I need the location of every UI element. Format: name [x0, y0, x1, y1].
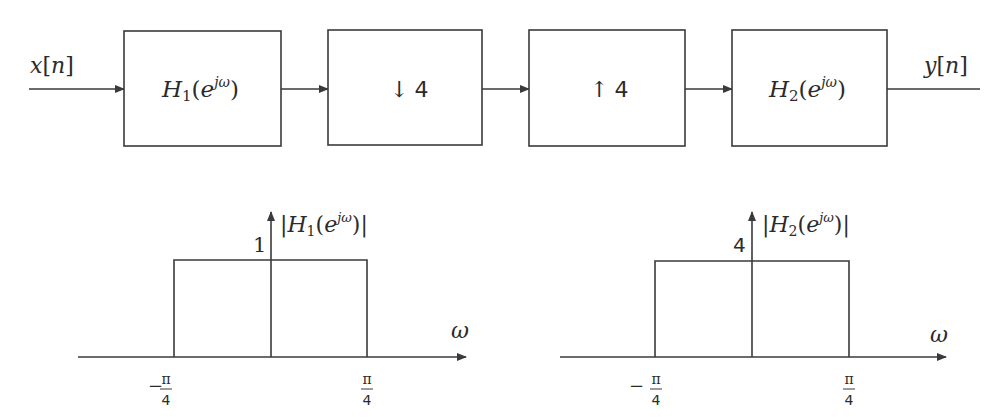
svg-text:4: 4: [363, 392, 372, 408]
block-diagram: x[n] H1(ejω) ↓4 ↑4: [29, 30, 980, 146]
tick-pi-over-4: π 4: [361, 371, 373, 408]
downsampler-block: ↓4: [328, 30, 482, 145]
tick-minus-pi-over-4: − π 4: [148, 371, 172, 408]
height-label: 1: [253, 233, 266, 257]
diagram-canvas: x[n] H1(ejω) ↓4 ↑4: [0, 0, 1007, 417]
svg-text:π: π: [362, 371, 371, 387]
filter-h2-block: H2(ejω): [732, 30, 887, 146]
svg-text:4: 4: [162, 392, 171, 408]
svg-text:−: −: [629, 375, 644, 396]
x-axis-label: ω: [451, 318, 469, 343]
svg-text:π: π: [844, 371, 853, 387]
filter-h1-block: H1(ejω): [124, 31, 281, 146]
svg-text:π: π: [651, 371, 660, 387]
up-arrow-icon: ↑: [590, 77, 608, 102]
y-axis-label: |H2(ejω)|: [762, 210, 850, 239]
svg-text:4: 4: [845, 392, 854, 408]
svg-text:4: 4: [652, 392, 661, 408]
tick-minus-pi-over-4: − π 4: [629, 371, 662, 408]
svg-text:π: π: [161, 371, 170, 387]
tick-pi-over-4: π 4: [843, 371, 855, 408]
plot-h2-magnitude: 4 |H2(ejω)| ω − π 4 π 4: [560, 210, 948, 408]
upsampler-block: ↑4: [529, 30, 685, 146]
output-label: y[n]: [923, 53, 968, 78]
y-axis-label: |H1(ejω)|: [280, 210, 368, 239]
x-axis-label: ω: [930, 322, 948, 347]
down-arrow-icon: ↓: [390, 77, 408, 102]
height-label: 4: [733, 233, 746, 257]
plot-h1-magnitude: 1 |H1(ejω)| ω − π 4 π 4: [78, 210, 469, 408]
input-label: x[n]: [30, 53, 74, 78]
